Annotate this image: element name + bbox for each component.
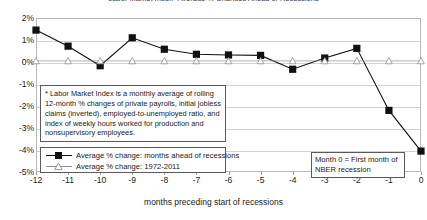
y-axis-tick-label: -2%	[2, 101, 34, 111]
chart-title: Labor Market Index* Average % Changes Ah…	[0, 0, 427, 1]
data-point-filled-square	[64, 43, 71, 50]
chart-container: Labor Market Index* Average % Changes Ah…	[0, 0, 427, 220]
footnote-box: * Labor Market Index is a monthly averag…	[40, 85, 226, 142]
y-axis-tick-label: -1%	[2, 79, 34, 89]
legend-item-series-1: Average % change: months ahead of recess…	[44, 150, 222, 161]
y-axis: 2%1%0%-1%-2%-3%-4%-5%	[0, 0, 34, 220]
x-axis-tick-label: 0	[419, 175, 424, 185]
legend-label-series-1: Average % change: months ahead of recess…	[74, 151, 239, 160]
x-axis-title: months preceding start of recessions	[0, 197, 427, 207]
footnote-text: * Labor Market Index is a monthly averag…	[45, 89, 221, 137]
y-axis-tick-label: -4%	[2, 145, 34, 155]
legend-label-series-2: Average % change: 1972-2011	[74, 162, 180, 171]
x-axis-tick-label: -9	[128, 175, 136, 185]
callout-text: Month 0 = First month of NBER recession	[315, 155, 398, 174]
x-axis-tick-label: -10	[94, 175, 106, 185]
y-axis-tick-label: 0%	[2, 57, 34, 67]
x-axis-tick-label: -11	[62, 175, 74, 185]
x-axis-tick-label: -4	[289, 175, 297, 185]
month-zero-callout: Month 0 = First month of NBER recession	[311, 152, 405, 178]
data-point-filled-square	[32, 27, 39, 34]
x-axis-tick-label: -7	[193, 175, 201, 185]
open-triangle-marker-icon	[44, 161, 74, 172]
x-axis-tick-label: -12	[30, 175, 42, 185]
data-point-filled-square	[161, 46, 168, 53]
x-axis-tick-label: -5	[257, 175, 265, 185]
y-axis-tick-label: 1%	[2, 35, 34, 45]
data-point-filled-square	[129, 34, 136, 41]
y-axis-tick-label: -3%	[2, 123, 34, 133]
legend-item-series-2: Average % change: 1972-2011	[44, 161, 222, 172]
legend: Average % change: months ahead of recess…	[40, 147, 226, 173]
data-point-filled-square	[353, 45, 360, 52]
data-point-filled-square	[385, 107, 392, 114]
data-point-filled-square	[417, 148, 424, 155]
data-point-filled-square	[289, 66, 296, 73]
x-axis-tick-label: -8	[161, 175, 169, 185]
y-axis-tick-label: 2%	[2, 13, 34, 23]
x-axis-tick-label: -6	[225, 175, 233, 185]
filled-square-marker-icon	[44, 150, 74, 161]
